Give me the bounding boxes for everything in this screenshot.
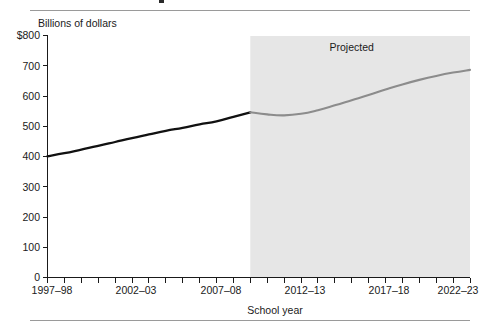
y-tick-label: $800 (17, 29, 41, 41)
y-tick-label: 300 (22, 181, 40, 193)
x-tick-label: 2012–13 (285, 284, 326, 296)
bottom-divider-rule (30, 320, 470, 321)
y-tick-label: 600 (22, 90, 40, 102)
x-axis-title: School year (247, 304, 302, 316)
x-tick-label: 2007–08 (201, 284, 242, 296)
y-tick-label: 200 (22, 211, 40, 223)
projected-shaded-band (250, 36, 470, 277)
y-tick-label: 100 (22, 241, 40, 253)
y-tick-label: 700 (22, 60, 40, 72)
y-tick-label: 400 (22, 150, 40, 162)
series-line-actual (48, 112, 251, 156)
x-tick-marks (48, 278, 471, 284)
x-tick-label: 2017–18 (369, 284, 410, 296)
x-axis-title-wrap: School year (0, 304, 490, 316)
x-tick-label: 2022–23 (438, 284, 479, 296)
chart-figure: Billions of dollars $800 700 600 500 400… (0, 0, 490, 326)
y-tick-label: 500 (22, 120, 40, 132)
chart-plot-area: $800 700 600 500 400 300 200 100 0 (0, 0, 490, 326)
y-tick-label: 0 (34, 271, 40, 283)
projected-annotation-label: Projected (330, 41, 375, 53)
x-tick-label: 2002–03 (116, 284, 157, 296)
x-tick-label: 1997–98 (32, 284, 73, 296)
